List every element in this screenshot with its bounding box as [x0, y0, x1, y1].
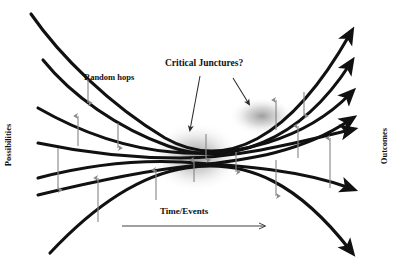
axis-label-outcomes: Outcomes — [379, 128, 389, 164]
leader-arrow-to-central-juncture — [190, 76, 200, 130]
axis-label-time-events: Time/Events — [160, 206, 208, 216]
critical-juncture-blurs — [150, 97, 295, 192]
annotation-critical-junctures: Critical Junctures? — [165, 58, 243, 68]
diagram-svg — [0, 0, 409, 271]
annotation-random-hops: Random hops — [84, 72, 134, 82]
axis-label-possibilities: Possibilities — [3, 124, 13, 167]
diagram-canvas: Possibilities Outcomes Random hops Criti… — [0, 0, 409, 271]
leader-arrow-to-upper-juncture — [233, 78, 249, 104]
